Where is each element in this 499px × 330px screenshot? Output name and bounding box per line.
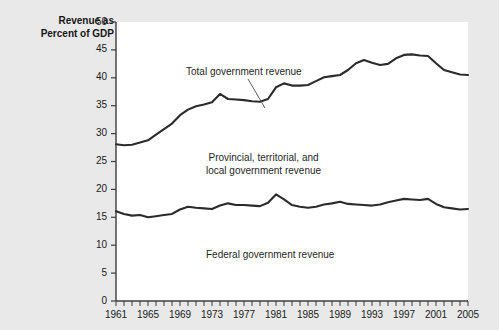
y-tick-label: 25 — [73, 155, 107, 166]
annotation-federal-revenue: Federal government revenue — [206, 249, 334, 262]
y-tick-label: 30 — [73, 127, 107, 138]
annotation-provincial-line2: local government revenue — [206, 165, 321, 176]
y-tick-label: 0 — [73, 295, 107, 306]
data-series-lines — [116, 54, 468, 217]
y-tick-label: 35 — [73, 99, 107, 110]
revenue-chart-figure: Revenue as Percent of GDP 05101520253035… — [0, 0, 499, 330]
annotation-provincial-line1: Provincial, territorial, and — [209, 152, 319, 163]
x-tick-marks — [116, 301, 468, 306]
y-tick-label: 50 — [73, 16, 107, 27]
y-tick-label: 20 — [73, 183, 107, 194]
y-tick-label: 45 — [73, 43, 107, 54]
annotation-provincial-revenue: Provincial, territorial, and local gover… — [206, 152, 321, 177]
series-line-federal — [116, 194, 468, 217]
y-tick-label: 40 — [73, 71, 107, 82]
annotation-total-revenue: Total government revenue — [186, 66, 302, 79]
x-tick-label: 2005 — [448, 309, 488, 320]
y-tick-marks — [111, 22, 116, 301]
y-tick-label: 10 — [73, 239, 107, 250]
leader-lines — [248, 79, 265, 108]
y-tick-label: 5 — [73, 267, 107, 278]
y-tick-label: 15 — [73, 211, 107, 222]
